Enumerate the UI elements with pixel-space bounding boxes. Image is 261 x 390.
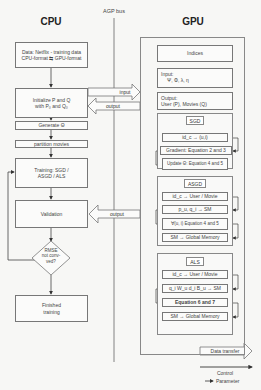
finished-box: Finished training: [15, 295, 88, 322]
asgd-step-3: ∀(u, i) Equation 4 and 5: [162, 218, 228, 230]
partition-box: partition movies: [15, 140, 88, 148]
gpu-input-value: Ψ, Φ, λ, η: [161, 77, 189, 83]
cpu-title: CPU: [30, 16, 72, 27]
asgd-tag: ASGD: [184, 179, 206, 188]
sgd-step-2: Gradient: Equation 2 and 3: [160, 146, 232, 155]
als-step-1: id_c → User / Movie: [162, 270, 228, 279]
decision-diamond: RMSE not conv- ved?: [36, 248, 66, 264]
asgd-step-4: SM → Global Memory: [162, 233, 228, 242]
asgd-step-1: id_c → User / Movie: [162, 192, 228, 201]
legend-control: Control: [210, 370, 240, 376]
als-step-4: SM → Global Memory: [162, 312, 228, 321]
init-box: Initialize P and Q with P₀ and Q₀: [15, 88, 88, 118]
input-arrow-label: input: [110, 89, 140, 95]
sgd-step-3: Update Θ: Equation 4 and 5: [162, 158, 228, 170]
training-box-line2: ASGD / ALS: [38, 173, 66, 179]
legend-data-transfer: Data transfer: [204, 348, 246, 354]
gpu-title: GPU: [172, 16, 214, 27]
als-step-3: Equation 6 and 7: [162, 298, 228, 307]
legend-parameter: Parameter: [216, 378, 239, 384]
finished-box-line2: training: [43, 309, 59, 315]
sgd-step-1: id_c → (u,i): [162, 133, 228, 142]
validation-output-arrow-label: output: [100, 211, 134, 217]
validation-box: Validation: [15, 200, 88, 228]
gpu-output-box: Output: User (P), Movies (Q): [157, 92, 233, 110]
bus-label: AGP bus: [103, 8, 125, 14]
sgd-tag: SGD: [186, 116, 204, 125]
als-step-2: q_i W_u d_i B_u → SM: [162, 284, 228, 293]
als-tag: ALS: [186, 257, 204, 266]
training-box: Training: SGD / ASGD / ALS: [15, 158, 88, 188]
output-arrow-label: output: [98, 103, 128, 109]
indices-box: Indices: [157, 45, 233, 62]
gpu-input-box: Input: Ψ, Φ, λ, η: [157, 68, 233, 88]
init-box-line2: with P₀ and Q₀: [35, 103, 68, 109]
gpu-output-value: User (P), Movies (Q): [161, 101, 207, 107]
data-box: Data: Netflix - training data CPU-format…: [15, 42, 88, 68]
decision-line3: ved?: [36, 259, 66, 264]
asgd-step-2: p_u, q_i → SM: [162, 205, 228, 214]
data-box-line2: CPU-format ⇆ GPU-format: [22, 55, 82, 61]
generate-box: Generate Θ: [15, 121, 88, 130]
